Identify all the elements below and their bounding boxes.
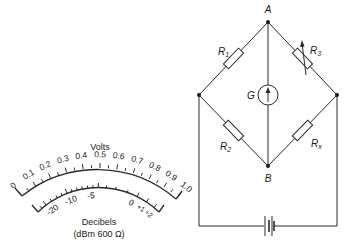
decibel-tick-label: +2: [144, 208, 155, 219]
decibels-sublabel: (dBm 600 Ω): [73, 229, 124, 239]
figure-canvas: 00.10.20.30.40.50.60.70.80.91.0 -20-10-5…: [0, 0, 348, 248]
r1-label: R1: [218, 46, 229, 58]
decibels-label: Decibels: [82, 217, 117, 227]
volts-arc: [22, 170, 176, 199]
galvanometer-label: G: [247, 90, 255, 101]
volt-tick: [141, 173, 142, 176]
volt-tick-label: 0.2: [38, 159, 53, 173]
decibel-tick: [50, 199, 52, 202]
decibel-tick-label: -10: [63, 193, 78, 207]
node-a-dot: [266, 20, 270, 24]
node-b-label: B: [265, 173, 272, 184]
volt-tick: [42, 179, 43, 182]
volt-tick: [125, 168, 126, 171]
decibel-tick: [43, 201, 46, 205]
decibel-tick-label: -5: [87, 190, 96, 201]
volt-tick: [74, 168, 75, 171]
resistor-r1: [199, 22, 268, 95]
rx-label: Rx: [311, 138, 322, 150]
volt-tick-label: 0.7: [130, 153, 144, 166]
volt-tick: [27, 188, 29, 190]
node-right-dot: [335, 93, 339, 97]
node-left-dot: [197, 93, 201, 97]
decibel-tick: [40, 206, 42, 208]
decibel-tick: [56, 195, 57, 198]
node-a-label: A: [264, 4, 272, 15]
volt-tick: [157, 180, 158, 183]
volt-tick-label: 0.1: [21, 167, 37, 182]
volt-tick: [65, 168, 66, 173]
volt-tick-label: 0.8: [147, 159, 162, 173]
decibel-tick: [65, 189, 67, 194]
volt-tick-label: 0.3: [56, 153, 70, 166]
volt-tick: [57, 172, 58, 175]
r3-label: R3: [310, 45, 321, 57]
volt-tick-label: 0.9: [164, 168, 180, 183]
volt-tick: [171, 190, 173, 192]
volt-tick: [19, 192, 22, 196]
r2-label: R2: [220, 141, 231, 153]
volt-tick-label: 0.4: [75, 150, 88, 162]
resistor-r2: [199, 95, 268, 166]
volt-tick: [133, 168, 134, 173]
decibel-tick: [82, 186, 83, 189]
decibel-tick: [154, 204, 157, 208]
battery-symbol: [265, 216, 274, 236]
resistor-r3-variable: [268, 22, 337, 95]
volt-tick-label: 0.6: [112, 150, 125, 162]
volt-tick: [117, 164, 118, 169]
volt-tick: [49, 174, 51, 179]
volt-tick: [149, 174, 151, 179]
node-b-dot: [266, 164, 270, 168]
volts-title: Volts: [90, 142, 110, 152]
decibel-tick: [116, 187, 117, 190]
galvanometer-symbol: [258, 85, 278, 105]
volt-tick: [33, 182, 36, 186]
volt-tick: [164, 183, 167, 187]
resistor-rx: [268, 95, 337, 166]
decibel-tick: [77, 188, 78, 191]
decibel-tick-label: 0: [127, 197, 136, 208]
volt-tick: [82, 164, 83, 169]
meter-scale: [15, 170, 182, 212]
